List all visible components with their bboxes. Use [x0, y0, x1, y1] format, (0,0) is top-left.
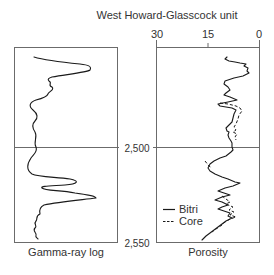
- chart-canvas: [0, 0, 274, 275]
- gamma-ray-panel-label: Gamma-ray log: [28, 246, 104, 258]
- depth-label-2500: 2,500: [124, 143, 149, 154]
- legend-bitri-label: Bitri: [179, 203, 198, 215]
- porosity-panel-frame: [157, 48, 260, 243]
- gamma-ray-panel-frame: [15, 48, 118, 243]
- porosity-bitri-trace: [202, 57, 249, 240]
- porosity-panel-label: Porosity: [188, 246, 228, 258]
- depth-label-2550: 2,550: [124, 238, 149, 249]
- legend-core-label: Core: [179, 215, 203, 227]
- porosity-core-trace: [205, 103, 242, 232]
